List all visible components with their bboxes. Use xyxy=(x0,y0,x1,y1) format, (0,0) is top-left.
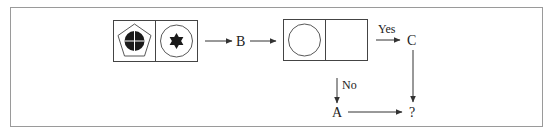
result-unknown: ? xyxy=(409,105,415,120)
node-a: A xyxy=(332,105,343,120)
diagram-canvas: B Yes C No A ? xyxy=(0,0,549,132)
input-box xyxy=(114,21,198,62)
no-label: No xyxy=(342,78,357,92)
star-icon xyxy=(170,33,184,49)
yes-label: Yes xyxy=(378,22,396,36)
node-c: C xyxy=(407,33,416,48)
node-b: B xyxy=(236,34,245,49)
crossed-circle-icon xyxy=(125,31,145,51)
decision-box xyxy=(284,20,368,61)
empty-circle-icon xyxy=(289,24,321,56)
